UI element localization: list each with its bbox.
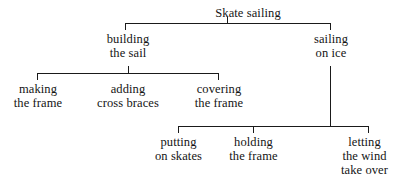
- tree-diagram: Skate sailing building the sail sailing …: [0, 0, 399, 189]
- node-adding-cross-braces: adding cross braces: [83, 82, 173, 110]
- node-building-the-sail: building the sail: [88, 32, 168, 60]
- node-holding-the-frame: holding the frame: [215, 135, 292, 163]
- connector-sailing-tick-left: [178, 126, 179, 133]
- node-covering-the-frame: covering the frame: [179, 82, 259, 110]
- connector-building-bar: [37, 73, 219, 74]
- connector-level1-tick-left: [125, 23, 126, 30]
- connector-level1-bar: [125, 23, 331, 24]
- connector-sailing-tick-middle: [253, 126, 254, 133]
- node-letting-the-wind-take-over: letting the wind take over: [330, 135, 399, 177]
- node-making-the-frame: making the frame: [0, 82, 76, 110]
- node-skate-sailing: Skate sailing: [188, 6, 308, 20]
- connector-building-tick-right: [218, 73, 219, 80]
- connector-building-tick-left: [37, 73, 38, 80]
- node-sailing-on-ice: sailing on ice: [291, 32, 371, 60]
- connector-sailing-stem: [330, 66, 331, 126]
- connector-sailing-tick-right: [368, 126, 369, 133]
- node-putting-on-skates: putting on skates: [140, 135, 217, 163]
- connector-sailing-bar: [178, 126, 369, 127]
- connector-level1-tick-right: [330, 23, 331, 30]
